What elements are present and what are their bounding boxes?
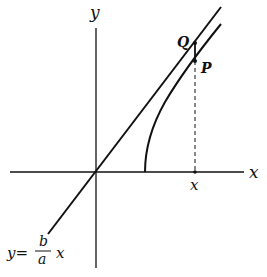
x-axis-label: x — [249, 162, 259, 182]
y-axis-label: y — [89, 2, 100, 22]
label-q: Q — [177, 34, 189, 50]
equation-denominator: a — [38, 251, 46, 267]
equation-numerator: b — [39, 233, 48, 249]
hyperbola-asymptote-diagram: y x Q P x y= b a x — [0, 0, 267, 277]
point-p — [193, 59, 197, 63]
equation-variable: x — [56, 244, 65, 262]
equation-lhs: y= — [6, 244, 28, 262]
label-p: P — [200, 60, 212, 76]
point-x — [193, 170, 197, 174]
point-q — [193, 41, 197, 45]
x-tick-label: x — [190, 176, 199, 194]
